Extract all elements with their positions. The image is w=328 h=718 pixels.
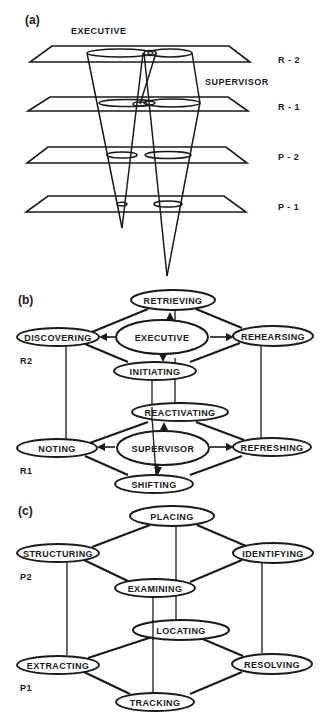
svg-text:SHIFTING: SHIFTING — [131, 480, 176, 490]
figure-canvas: (a) EXECUTIVE SUPERVISOR R - 2 R - 1 P -… — [0, 0, 328, 718]
level-p1: P - 1 — [278, 202, 299, 212]
svg-text:DISCOVERING: DISCOVERING — [24, 333, 91, 343]
node-examining: EXAMINING — [115, 579, 195, 597]
node-identifying: IDENTIFYING — [233, 543, 313, 563]
panel-a: (a) EXECUTIVE SUPERVISOR R - 2 R - 1 P -… — [25, 13, 300, 276]
level-r2-label: R2 — [20, 356, 33, 366]
node-shifting: SHIFTING — [115, 475, 193, 493]
svg-text:STRUCTURING: STRUCTURING — [23, 549, 93, 559]
node-placing: PLACING — [130, 506, 214, 526]
level-r1-label: R1 — [20, 466, 33, 476]
svg-text:EXTRACTING: EXTRACTING — [27, 661, 90, 671]
node-extracting: EXTRACTING — [17, 656, 99, 674]
svg-text:EXECUTIVE: EXECUTIVE — [135, 333, 190, 343]
node-executive: EXECUTIVE — [116, 320, 208, 354]
svg-text:TRACKING: TRACKING — [130, 698, 181, 708]
node-tracking: TRACKING — [116, 693, 194, 711]
p-edges — [84, 525, 246, 694]
level-p1-label: P1 — [20, 683, 32, 693]
svg-text:PLACING: PLACING — [150, 512, 193, 522]
svg-text:IDENTIFYING: IDENTIFYING — [242, 549, 303, 559]
svg-text:EXAMINING: EXAMINING — [128, 584, 183, 594]
level-r2: R - 2 — [278, 55, 300, 65]
svg-text:REACTIVATING: REACTIVATING — [145, 408, 216, 418]
node-initiating: INITIATING — [114, 362, 196, 380]
node-structuring: STRUCTURING — [17, 544, 99, 562]
svg-text:NOTING: NOTING — [38, 444, 75, 454]
svg-text:SUPERVISOR: SUPERVISOR — [132, 444, 195, 454]
panel-b: (b) R2 R1 — [17, 290, 313, 493]
executive-title: EXECUTIVE — [71, 26, 127, 36]
panel-a-label: (a) — [25, 13, 40, 27]
node-supervisor: SUPERVISOR — [117, 431, 209, 465]
node-resolving: RESOLVING — [232, 654, 312, 674]
executive-cone — [87, 49, 155, 228]
panel-c-label: (c) — [18, 504, 33, 518]
node-reactivating: REACTIVATING — [132, 403, 228, 421]
svg-text:RETRIEVING: RETRIEVING — [143, 296, 202, 306]
panel-b-label: (b) — [18, 293, 33, 307]
svg-text:REFRESHING: REFRESHING — [240, 443, 303, 453]
node-refreshing: REFRESHING — [233, 438, 311, 456]
plane-p1 — [26, 196, 246, 212]
node-retrieving: RETRIEVING — [131, 290, 215, 310]
node-discovering: DISCOVERING — [17, 328, 99, 346]
level-p2: P - 2 — [278, 152, 299, 162]
node-rehearsing: REHEARSING — [233, 326, 313, 346]
level-r1: R - 1 — [278, 102, 300, 112]
svg-text:INITIATING: INITIATING — [130, 367, 181, 377]
supervisor-title: SUPERVISOR — [205, 77, 269, 87]
svg-text:REHEARSING: REHEARSING — [241, 332, 305, 342]
panel-c: (c) P2 P1 PLACING STRUCTURING — [17, 504, 313, 711]
node-locating: LOCATING — [133, 620, 229, 640]
svg-text:LOCATING: LOCATING — [156, 626, 206, 636]
plane-r2 — [30, 46, 250, 62]
level-planes — [26, 46, 250, 212]
node-noting: NOTING — [17, 439, 97, 457]
svg-text:RESOLVING: RESOLVING — [244, 660, 300, 670]
level-p2-label: P2 — [20, 572, 32, 582]
